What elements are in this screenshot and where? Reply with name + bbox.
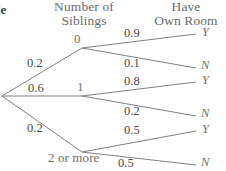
column-header-siblings-line1: Number of [44, 0, 124, 14]
clipped-left-text: le [0, 2, 6, 18]
probability-root-to-twoormore: 0.2 [27, 122, 43, 135]
column-header-own-room-line2: Own Room [146, 14, 226, 28]
node-label-twoormore: 2 or more [48, 151, 99, 165]
probability-one-to-no: 0.2 [124, 105, 140, 118]
leaf-label-one-no: N [201, 107, 209, 120]
column-header-own-room-line1: Have [146, 0, 226, 14]
probability-root-to-zero: 0.2 [27, 57, 43, 70]
leaf-label-zero-no: N [201, 59, 209, 72]
leaf-label-twoormore-yes: Y [202, 123, 209, 136]
probability-twoormore-to-no: 0.5 [118, 157, 134, 170]
probability-root-to-one: 0.6 [28, 82, 44, 95]
leaf-label-twoormore-no: N [201, 156, 209, 169]
probability-zero-to-no: 0.1 [124, 57, 140, 70]
column-header-siblings: Number of Siblings [44, 0, 124, 28]
column-header-siblings-line2: Siblings [44, 14, 124, 28]
node-label-zero: 0 [74, 32, 81, 46]
probability-zero-to-yes: 0.9 [124, 27, 140, 40]
probability-twoormore-to-yes: 0.5 [124, 124, 140, 137]
leaf-label-one-yes: Y [202, 74, 209, 87]
node-label-one: 1 [77, 80, 84, 94]
column-header-own-room: Have Own Room [146, 0, 226, 28]
leaf-label-zero-yes: Y [202, 26, 209, 39]
probability-one-to-yes: 0.8 [124, 75, 140, 88]
